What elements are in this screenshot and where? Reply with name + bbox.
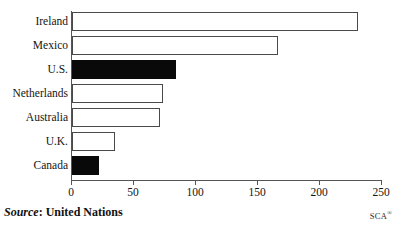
credit-text: SCA [370,211,387,221]
bar-us [72,60,176,79]
bar-canada [72,156,99,175]
bar-mexico [72,36,278,55]
source-value: United Nations [46,205,123,219]
tick-mark-250 [381,181,382,185]
category-label-mexico: Mexico [0,40,68,52]
source-separator: : [39,205,43,219]
tick-mark-0 [71,181,72,185]
category-baseline-axis [71,180,382,181]
tick-mark-50 [133,181,134,185]
tick-mark-150 [257,181,258,185]
tick-mark-200 [319,181,320,185]
source-note: Source: United Nations [4,205,123,219]
category-label-canada: Canada [0,160,68,172]
source-label: Source [4,205,39,219]
category-label-netherlands: Netherlands [0,88,68,100]
category-label-us: U.S. [0,64,68,76]
registered-trademark-icon: ® [387,210,392,216]
plot-area: Ireland Mexico U.S. Netherlands Australi… [0,0,397,190]
category-axis-labels: Ireland Mexico U.S. Netherlands Australi… [0,12,68,180]
tick-label-50: 50 [113,186,153,198]
category-label-uk: U.K. [0,136,68,148]
tick-label-100: 100 [175,186,215,198]
tick-label-200: 200 [299,186,339,198]
tick-label-150: 150 [237,186,277,198]
category-label-ireland: Ireland [0,16,68,28]
credit-mark: SCA® [370,208,392,221]
chart-figure: Ireland Mexico U.S. Netherlands Australi… [0,0,397,227]
bar-uk [72,132,115,151]
bar-netherlands [72,84,163,103]
tick-mark-100 [195,181,196,185]
category-label-australia: Australia [0,112,68,124]
bar-australia [72,108,160,127]
tick-label-0: 0 [51,186,91,198]
bar-series [72,12,392,180]
tick-label-250: 250 [361,186,397,198]
bar-ireland [72,12,358,31]
